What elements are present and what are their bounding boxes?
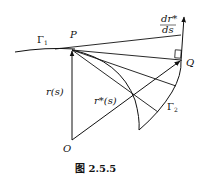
label-gamma2: Γ2 (167, 101, 178, 113)
vector-r-star-s (72, 61, 180, 140)
curve-gamma1 (15, 48, 75, 52)
figure-caption: 图 2.5.5 (75, 163, 116, 174)
label-r-s: r(s) (46, 86, 64, 97)
label-p: P (69, 29, 77, 40)
label-q: Q (186, 57, 194, 68)
diagram-figure: Γ1 P Q O r(s) r*(s) Γ2 dr* ds 图 2.5.5 (0, 0, 206, 178)
label-deriv-denominator: ds (162, 24, 174, 35)
label-deriv-numerator: dr* (161, 13, 177, 24)
label-o: O (63, 143, 71, 154)
right-angle-marker (175, 50, 182, 58)
label-gamma1: Γ1 (37, 34, 48, 46)
vector-derivative (181, 17, 184, 61)
label-r-star-s: r*(s) (94, 95, 117, 106)
